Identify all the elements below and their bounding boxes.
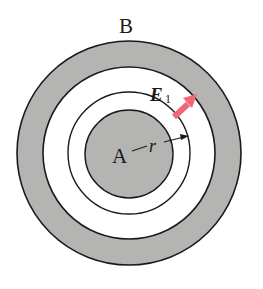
label-a: A <box>112 144 128 168</box>
concentric-spheres-diagram: B A r E 1 <box>0 0 263 289</box>
label-e: E <box>149 84 163 105</box>
inner-sphere-a <box>85 110 173 198</box>
label-r: r <box>149 136 157 156</box>
label-b: B <box>119 14 133 38</box>
label-e-subscript: 1 <box>165 92 171 106</box>
